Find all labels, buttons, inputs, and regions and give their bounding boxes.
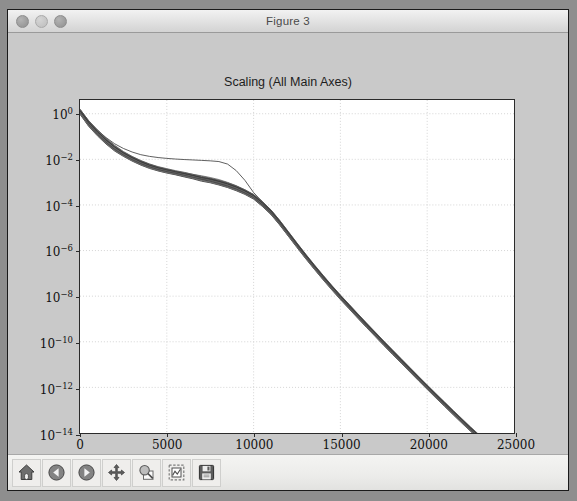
y-axis-tick-mark: [76, 343, 80, 344]
y-axis-tick-mark: [76, 297, 80, 298]
y-axis-tick-label: 10−14: [40, 427, 73, 443]
y-axis-tick-label: 10−2: [45, 152, 73, 168]
data-series-line: [80, 111, 514, 433]
data-series-line: [80, 109, 514, 433]
y-axis-tick-mark: [76, 251, 80, 252]
pan-button[interactable]: [102, 459, 131, 487]
plot-lines-svg: [80, 100, 514, 433]
window-controls: [16, 10, 67, 32]
window-title: Figure 3: [266, 15, 310, 27]
data-series-line: [80, 112, 514, 433]
matplotlib-toolbar: [8, 454, 568, 490]
plot-axes[interactable]: 10010−210−410−610−810−1010−1210−14050001…: [79, 99, 515, 434]
y-axis-tick-mark: [76, 389, 80, 390]
data-series-line: [80, 113, 514, 433]
close-button-icon[interactable]: [16, 15, 29, 28]
window-titlebar[interactable]: Figure 3: [8, 10, 568, 33]
x-axis-tick-label: 10000: [235, 438, 273, 452]
y-axis-tick-mark: [76, 114, 80, 115]
figure-canvas: Scaling (All Main Axes) 10010−210−410−61…: [8, 33, 568, 454]
data-series-line: [80, 112, 514, 433]
x-axis-tick-mark: [80, 433, 81, 437]
y-axis-tick-label: 10−4: [45, 198, 73, 214]
y-axis-tick-label: 10−8: [45, 289, 73, 305]
back-arrow-icon: [47, 463, 66, 482]
y-axis-tick-mark: [76, 160, 80, 161]
figure-window: Figure 3 Scaling (All Main Axes) 10010−2…: [7, 9, 569, 491]
home-icon: [17, 463, 36, 482]
data-series-line: [80, 109, 514, 433]
pan-move-icon: [107, 463, 126, 482]
y-axis-tick-label: 10−10: [40, 335, 73, 351]
data-series-line: [80, 111, 514, 433]
zoom-magnifier-icon: [137, 463, 156, 482]
x-axis-tick-mark: [254, 433, 255, 437]
home-button[interactable]: [12, 459, 41, 487]
data-series-line: [80, 110, 514, 433]
data-series-line: [80, 111, 514, 433]
x-axis-tick-label: 25000: [497, 438, 535, 452]
save-floppy-icon: [197, 463, 216, 482]
forward-button[interactable]: [72, 459, 101, 487]
subplot-config-icon: [167, 463, 186, 482]
data-series-line: [80, 113, 514, 433]
data-series-line: [80, 114, 514, 433]
forward-arrow-icon: [77, 463, 96, 482]
y-axis-tick-mark: [76, 206, 80, 207]
x-axis-tick-mark: [516, 433, 517, 437]
x-axis-tick-label: 15000: [323, 438, 361, 452]
minimize-button-icon[interactable]: [35, 15, 48, 28]
data-series-line: [80, 113, 514, 433]
x-axis-tick-mark: [342, 433, 343, 437]
y-axis-tick-label: 100: [52, 106, 73, 122]
x-axis-tick-mark: [167, 433, 168, 437]
x-axis-tick-label: 20000: [410, 438, 448, 452]
maximize-button-icon[interactable]: [54, 15, 67, 28]
data-series-line: [80, 112, 514, 433]
data-series-line: [80, 112, 514, 433]
y-axis-tick-label: 10−12: [40, 381, 73, 397]
x-axis-tick-label: 5000: [152, 438, 183, 452]
back-button[interactable]: [42, 459, 71, 487]
data-series-line: [80, 110, 514, 433]
x-axis-tick-mark: [429, 433, 430, 437]
chart-title: Scaling (All Main Axes): [8, 75, 568, 89]
configure-subplots-button[interactable]: [162, 459, 191, 487]
data-series-line: [80, 114, 514, 433]
data-series-line: [80, 110, 514, 433]
zoom-button[interactable]: [132, 459, 161, 487]
y-axis-tick-label: 10−6: [45, 243, 73, 259]
save-button[interactable]: [192, 459, 221, 487]
x-axis-tick-label: 0: [76, 438, 84, 452]
